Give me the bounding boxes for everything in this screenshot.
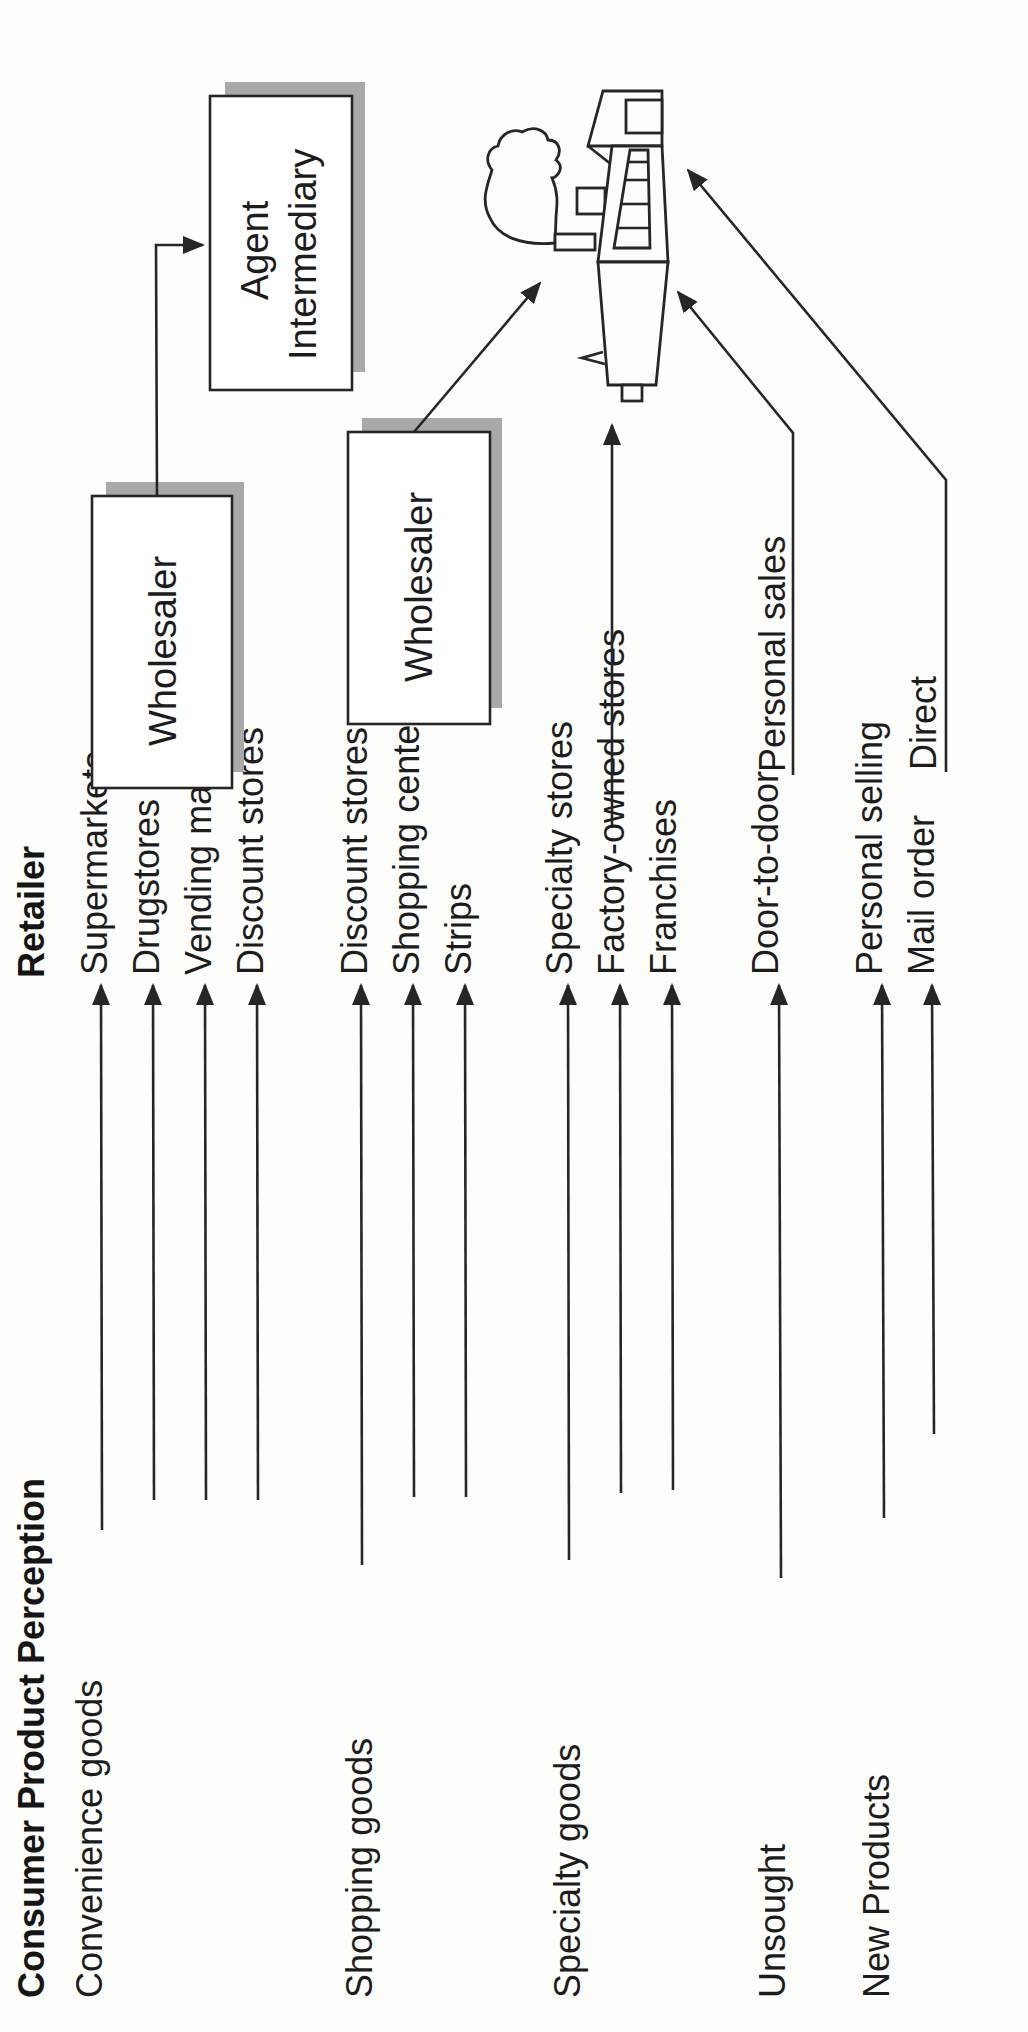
category-convenience-goods: Convenience goods — [69, 1680, 110, 1998]
retailer-franchises: Franchises — [643, 799, 684, 975]
retailer-discount-stores-2: Discount stores — [334, 727, 375, 975]
arrow-icon — [779, 985, 781, 1578]
arrow-icon — [205, 985, 206, 1500]
arrow-icon — [361, 985, 362, 1565]
arrow-icon — [672, 985, 673, 1490]
arrow-icon — [101, 985, 102, 1530]
category-arrows — [101, 985, 934, 1578]
arrow-icon — [413, 985, 414, 1497]
direct-label: Direct — [903, 676, 944, 770]
arrow-icon — [257, 985, 258, 1500]
personal-sales-label: Personal sales — [752, 536, 793, 772]
wholesaler-box-2: Wholesaler — [348, 418, 502, 724]
retailer-mail-order: Mail order — [901, 815, 942, 975]
wholesaler-box-1: Wholesaler — [92, 482, 244, 788]
arrow-icon — [465, 985, 466, 1497]
category-specialty-goods: Specialty goods — [547, 1744, 588, 1998]
arrow-icon — [882, 985, 884, 1518]
agent-intermediary-box: Agent Intermediary — [210, 82, 365, 390]
distribution-channel-diagram: Consumer Product Perception Retailer Con… — [0, 0, 1028, 2032]
retailer-specialty-stores: Specialty stores — [539, 721, 580, 975]
retailer-header: Retailer — [11, 846, 52, 978]
factory-icon — [485, 91, 668, 401]
retailer-door-to-door: Door-to-door — [745, 771, 786, 975]
diagram-svg: Consumer Product Perception Retailer Con… — [0, 0, 1028, 2032]
arrow-icon — [153, 985, 154, 1500]
category-unsought: Unsought — [752, 1844, 793, 1998]
wholesaler-to-agent-arrow — [156, 245, 203, 496]
retailer-drugstores: Drugstores — [126, 799, 167, 975]
retailer-personal-selling: Personal selling — [849, 721, 890, 975]
wholesaler-2-label: Wholesaler — [398, 492, 440, 682]
arrow-icon — [620, 985, 621, 1493]
arrow-icon — [932, 985, 934, 1434]
category-new-products: New Products — [856, 1774, 897, 1998]
category-shopping-goods: Shopping goods — [339, 1738, 380, 1998]
arrow-icon — [568, 985, 569, 1560]
wholesaler-1-label: Wholesaler — [142, 556, 184, 746]
perception-header: Consumer Product Perception — [11, 1478, 52, 1998]
agent-label: Agent — [234, 200, 276, 300]
retailer-strips: Strips — [438, 883, 479, 975]
wholesaler-to-factory-arrow — [414, 283, 540, 432]
intermediary-label: Intermediary — [282, 149, 324, 360]
